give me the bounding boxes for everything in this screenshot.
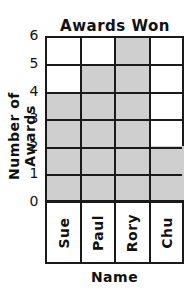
bar-paul (81, 65, 115, 200)
x-axis-label: Name (45, 269, 184, 285)
bar-sue (47, 92, 81, 200)
y-tick-5: 5 (26, 56, 42, 70)
bar-chu (150, 146, 184, 200)
plot-area (45, 36, 184, 202)
column-divider (80, 203, 82, 262)
column-divider (80, 38, 82, 200)
y-tick-3: 3 (26, 111, 42, 125)
category-label-chu: Chu (159, 217, 175, 249)
category-label-rory: Rory (125, 213, 141, 251)
y-tick-6: 6 (26, 28, 42, 42)
category-label-sue: Sue (56, 217, 72, 248)
column-divider (114, 38, 116, 200)
chart-title: Awards Won (45, 17, 185, 35)
y-tick-0: 0 (26, 194, 42, 208)
column-divider (149, 203, 151, 262)
category-cell: Sue (47, 203, 81, 262)
column-divider (149, 38, 151, 200)
x-axis-categories: Sue Paul Rory Chu (45, 201, 184, 264)
category-cell: Rory (115, 203, 150, 262)
column-divider (114, 203, 116, 262)
y-tick-4: 4 (26, 84, 42, 98)
category-label-paul: Paul (90, 214, 106, 250)
y-tick-2: 2 (26, 139, 42, 153)
category-cell: Chu (150, 203, 184, 262)
category-cell: Paul (81, 203, 115, 262)
y-tick-1: 1 (26, 166, 42, 180)
